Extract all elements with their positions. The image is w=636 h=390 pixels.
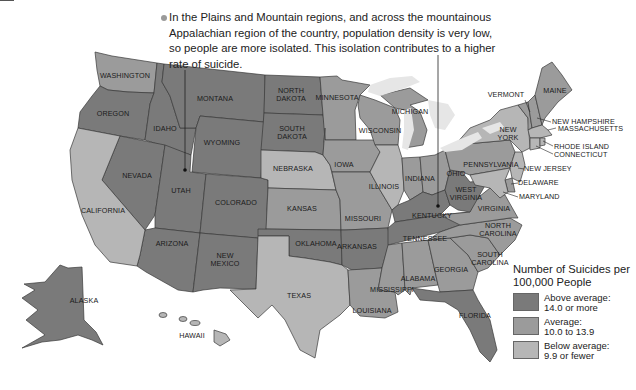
- legend-title: Number of Suicides per 100,000 People: [513, 263, 633, 288]
- label-montana: MONTANA: [197, 94, 233, 103]
- label-alabama: ALABAMA: [401, 274, 436, 283]
- label-utah: UTAH: [171, 186, 190, 195]
- callout-text: In the Plains and Mountain regions, and …: [169, 11, 495, 70]
- label-delaware: DELAWARE: [518, 178, 559, 187]
- label-alaska: ALASKA: [70, 296, 99, 305]
- label-south-carolina-2: CAROLINA: [471, 258, 509, 267]
- map-legend: Number of Suicides per 100,000 People Ab…: [513, 263, 633, 365]
- legend-item-above-average: Above average: 14.0 or more: [513, 293, 633, 313]
- label-minnesota: MINNESOTA: [315, 93, 358, 102]
- label-oregon: OREGON: [97, 109, 130, 118]
- state-alaska: [22, 265, 103, 348]
- label-tennessee: TENNESSEE: [403, 234, 448, 243]
- legend-label-line2: 10.0 to 13.9: [544, 327, 594, 337]
- label-florida: FLORIDA: [459, 311, 491, 320]
- bullet-icon: [161, 15, 167, 21]
- label-idaho: IDAHO: [153, 124, 177, 133]
- callout-dot-kentucky: [436, 204, 440, 208]
- label-iowa: IOWA: [334, 160, 353, 169]
- label-massachusetts: MASSACHUSETTS: [558, 124, 623, 133]
- label-new-jersey: NEW JERSEY: [524, 164, 572, 173]
- label-colorado: COLORADO: [215, 198, 257, 207]
- label-west-virginia-2: VIRGINIA: [450, 193, 482, 202]
- label-missouri: MISSOURI: [345, 214, 381, 223]
- label-mississippi: MISSISSIPPI: [370, 285, 414, 294]
- label-new-mexico-2: MEXICO: [211, 259, 240, 268]
- label-south-dakota-2: DAKOTA: [277, 132, 307, 141]
- state-wyoming: [192, 116, 264, 178]
- label-hawaii: HAWAII: [179, 331, 205, 340]
- legend-item-average: Average: 10.0 to 13.9: [513, 317, 633, 337]
- label-pennsylvania: PENNSYLVANIA: [463, 160, 518, 169]
- label-connecticut: CONNECTICUT: [554, 150, 608, 159]
- label-michigan: MICHIGAN: [392, 107, 429, 116]
- state-hawaii: [159, 313, 230, 347]
- label-california: CALIFORNIA: [81, 206, 125, 215]
- label-kentucky: KENTUCKY: [412, 211, 452, 220]
- label-louisiana: LOUISIANA: [352, 306, 391, 315]
- callout-annotation: In the Plains and Mountain regions, and …: [169, 10, 499, 72]
- legend-item-below-average: Below average: 9.9 or fewer: [513, 341, 633, 361]
- legend-label-line2: 14.0 or more: [544, 303, 611, 313]
- label-illinois: ILLINOIS: [369, 182, 399, 191]
- label-maryland: MARYLAND: [519, 192, 560, 201]
- label-maine: MAINE: [543, 86, 566, 95]
- legend-label-line2: 9.9 or fewer: [544, 351, 609, 361]
- legend-swatch-dark: [513, 293, 539, 311]
- label-nevada: NEVADA: [122, 171, 152, 180]
- label-arizona: ARIZONA: [156, 239, 189, 248]
- label-vermont: VERMONT: [488, 90, 525, 99]
- callout-dot-utah: [183, 168, 187, 172]
- state-arizona: [137, 228, 200, 292]
- label-texas: TEXAS: [287, 291, 311, 300]
- label-virginia: VIRGINIA: [478, 204, 510, 213]
- label-arkansas: ARKANSAS: [337, 242, 377, 251]
- state-florida: [412, 288, 497, 362]
- label-north-dakota-2: DAKOTA: [276, 94, 306, 103]
- label-wisconsin: WISCONSIN: [359, 126, 401, 135]
- label-indiana: INDIANA: [405, 174, 435, 183]
- legend-swatch-light: [513, 341, 539, 359]
- label-oklahoma: OKLAHOMA: [295, 239, 337, 248]
- label-kansas: KANSAS: [287, 204, 317, 213]
- state-rhode-island: [540, 138, 545, 146]
- state-connecticut: [530, 138, 540, 150]
- label-nebraska: NEBRASKA: [273, 164, 313, 173]
- label-new-york-2: YORK: [498, 133, 519, 142]
- label-ohio: OHIO: [447, 169, 466, 178]
- label-north-carolina-2: CAROLINA: [479, 229, 517, 238]
- label-wyoming: WYOMING: [204, 138, 241, 147]
- label-washington: WASHINGTON: [100, 71, 150, 80]
- label-georgia: GEORGIA: [434, 265, 468, 274]
- legend-swatch-medium: [513, 317, 539, 335]
